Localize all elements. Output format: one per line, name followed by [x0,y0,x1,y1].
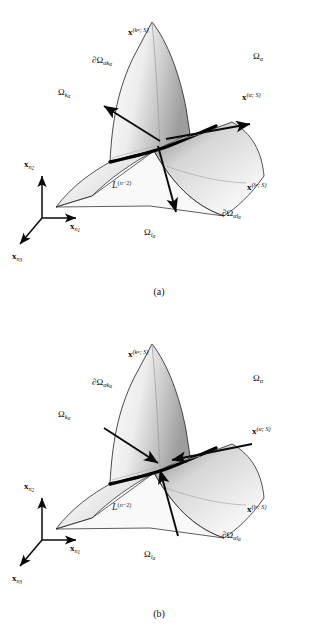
panel-b: x(kα; S) ∂Ωαkα Ωα x(α; S) Ωkα L(n−2) x(l… [0,322,318,644]
panel-b-geometry [0,322,318,644]
label-axis-x-n2-b: xn2 [24,482,34,493]
axis-triad-b [20,498,76,566]
label-omega-alpha-a: Ωα [253,52,263,62]
label-x-alpha-a: x(α; S) [242,92,261,102]
panel-a: x(kα; S) ∂Ωαkα Ωα x(α; S) Ωkα L(n−2) x(l… [0,0,318,322]
axis-x-n3 [20,540,42,566]
axis-triad-a [20,176,76,244]
label-boundary-alpha-l-a: ∂Ωαlα [222,209,241,220]
label-x-alpha-b: x(α; S) [252,426,271,436]
label-boundary-alpha-l-b: ∂Ωαlα [222,531,241,542]
label-curve-a: L(n−2) [112,180,131,190]
label-x-l-alpha-b: x(lα; S) [247,504,266,514]
label-omega-l-alpha-b: Ωlα [144,550,155,561]
label-axis-x-n1-b: xn1 [70,544,80,555]
caption-a: (a) [0,286,318,297]
label-omega-l-alpha-a: Ωlα [144,228,155,239]
label-x-k-alpha-a: x(kα; S) [128,27,149,37]
label-x-l-alpha-a: x(lα; S) [247,182,266,192]
figure-page: x(kα; S) ∂Ωαkα Ωα x(α; S) Ωkα L(n−2) x(l… [0,0,318,644]
label-omega-k-alpha-a: Ωkα [58,88,70,99]
caption-b: (b) [0,608,318,619]
label-boundary-alpha-k-a: ∂Ωαkα [92,56,112,67]
label-boundary-alpha-k-b: ∂Ωαkα [92,378,112,389]
label-curve-b: L(n−2) [112,502,131,512]
label-x-k-alpha-b: x(kα; S) [128,349,149,359]
axis-x-n3 [20,218,42,244]
panel-a-geometry [0,0,318,322]
label-omega-k-alpha-b: Ωkα [58,410,70,421]
label-axis-x-n3-b: xn3 [12,574,22,585]
label-axis-x-n3-a: xn3 [12,252,22,263]
label-axis-x-n1-a: xn1 [70,222,80,233]
label-omega-alpha-b: Ωα [253,374,263,384]
label-axis-x-n2-a: xn2 [24,160,34,171]
